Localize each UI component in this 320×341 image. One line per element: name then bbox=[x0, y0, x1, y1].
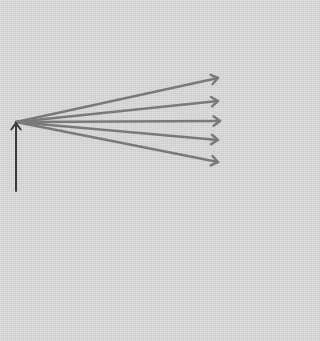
fan-arrow-1 bbox=[16, 75, 218, 122]
arrow-fan-diagram bbox=[0, 0, 240, 341]
diagram-canvas bbox=[0, 0, 240, 341]
fan-arrow-5 bbox=[16, 122, 218, 165]
vertical-arrow bbox=[11, 123, 20, 191]
